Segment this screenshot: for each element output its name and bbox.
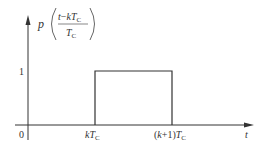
pulse-waveform xyxy=(95,71,172,125)
svg-text:TC: TC xyxy=(66,27,77,40)
origin-label: 0 xyxy=(19,129,24,140)
numerator-sub: C xyxy=(76,16,81,24)
x-tick-label-start: kTC xyxy=(85,129,100,142)
right-paren-icon xyxy=(90,8,95,40)
function-name: p xyxy=(37,17,44,31)
x-axis-label: t xyxy=(245,129,248,140)
y-axis-arrow-icon xyxy=(26,15,31,25)
denominator-sub: C xyxy=(72,32,77,40)
function-label: p t−kTC TC xyxy=(37,8,95,40)
x-tick-label-end: (k+1)TC xyxy=(154,129,186,142)
left-paren-icon xyxy=(52,8,57,40)
svg-text:t−kTC: t−kTC xyxy=(58,11,81,24)
x-axis-arrow-icon xyxy=(244,123,254,128)
pulse-diagram: p t−kTC TC 1 0 kTC (k+1)TC t xyxy=(0,0,268,155)
y-tick-label-1: 1 xyxy=(19,66,24,77)
